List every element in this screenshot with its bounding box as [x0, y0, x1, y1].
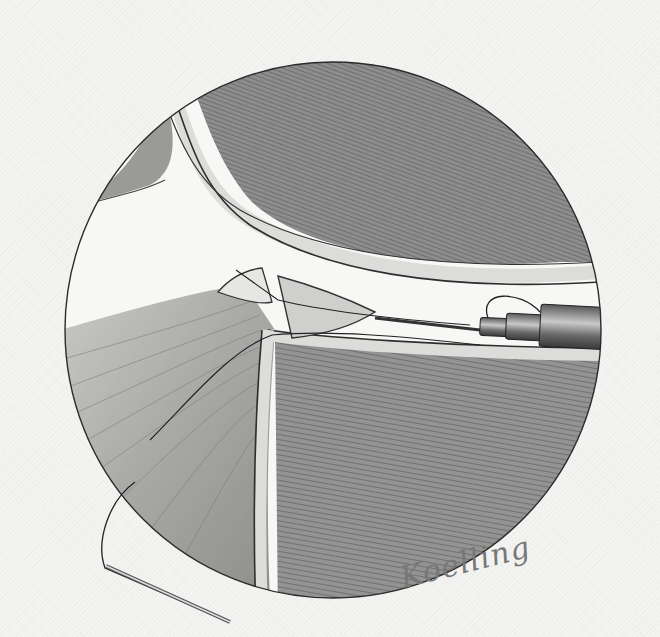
soft-tissue	[60, 285, 275, 600]
arthroscope-view	[60, 20, 620, 620]
arthroscopic-illustration	[0, 0, 660, 637]
